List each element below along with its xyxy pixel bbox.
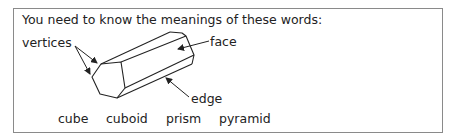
word-prism: prism: [166, 113, 201, 126]
word-pyramid: pyramid: [219, 113, 271, 126]
word-cube: cube: [58, 113, 88, 126]
word-cuboid: cuboid: [106, 113, 148, 126]
front-face: [92, 62, 125, 98]
